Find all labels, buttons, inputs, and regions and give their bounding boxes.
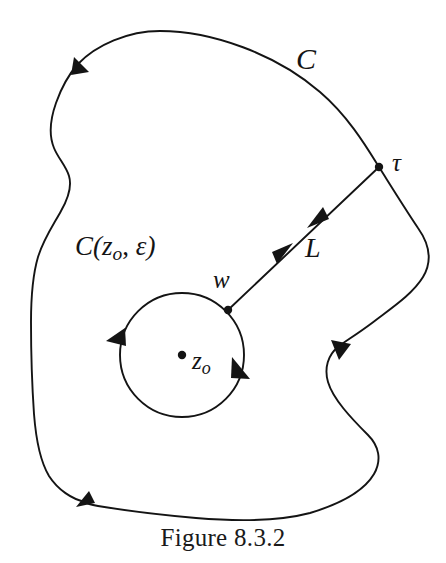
- small-circle-label-center: z: [102, 231, 113, 261]
- outer-contour-arrow-top-left: [71, 57, 89, 75]
- center-point-label-base: z: [192, 347, 202, 374]
- center-point-dot: [178, 351, 186, 359]
- cross-cut-label: L: [305, 234, 321, 262]
- outer-contour-label: C: [296, 44, 316, 74]
- small-circle-label-center-sub: o: [113, 243, 123, 264]
- tau-point-dot: [375, 163, 383, 171]
- figure-caption: Figure 8.3.2: [0, 524, 446, 552]
- small-circle-arrow-left: [106, 328, 126, 346]
- small-circle-label: C(zo, ε): [75, 233, 155, 264]
- small-circle-label-radius: ε: [136, 231, 147, 261]
- small-circle-arrow-right: [231, 357, 250, 379]
- tau-point-label: τ: [392, 150, 401, 175]
- w-point-label: w: [213, 267, 230, 292]
- w-point-dot: [224, 306, 232, 314]
- figure-container: C τ L w C(zo, ε) zo Figure 8.3.2: [0, 0, 446, 563]
- center-point-label: zo: [192, 348, 211, 377]
- small-circle-label-comma: ,: [122, 231, 136, 261]
- small-circle-label-suffix: ): [146, 231, 155, 261]
- center-point-label-sub: o: [202, 358, 211, 378]
- cross-cut-arrow-toward-tau: [272, 243, 293, 264]
- small-circle-label-prefix: C(: [75, 231, 102, 261]
- cross-cut-line: [228, 167, 379, 310]
